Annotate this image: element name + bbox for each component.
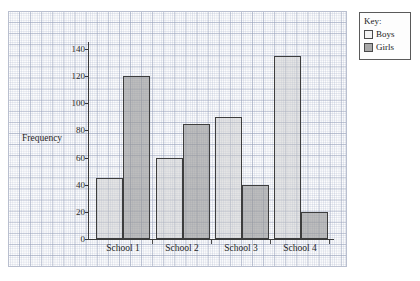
- y-tick-0: [85, 239, 89, 240]
- bar-school-1-boys: [96, 178, 123, 239]
- bar-school-2-boys: [156, 158, 183, 239]
- y-tick-label-80: 80: [55, 126, 85, 135]
- x-tick-label-school-2: School 2: [152, 243, 212, 253]
- bar-school-3-boys: [215, 117, 242, 239]
- y-tick-120: [85, 76, 89, 77]
- bar-school-4-boys: [274, 56, 301, 239]
- y-tick-label-20: 20: [55, 208, 85, 217]
- y-tick-40: [85, 185, 89, 186]
- y-tick-20: [85, 212, 89, 213]
- chart-legend: Key: Boys Girls: [359, 12, 411, 60]
- x-tick-label-school-1: School 1: [93, 243, 153, 253]
- bar-school-3-girls: [242, 185, 269, 239]
- legend-swatch-girls-icon: [364, 43, 373, 52]
- y-tick-label-100: 100: [55, 99, 85, 108]
- bar-chart: Frequency 0 20 40 60 80 100 120 140 Scho…: [0, 0, 420, 281]
- y-tick-60: [85, 158, 89, 159]
- bar-school-4-girls: [301, 212, 328, 239]
- legend-label-boys: Boys: [376, 28, 395, 40]
- bar-school-1-girls: [123, 76, 150, 239]
- legend-swatch-boys-icon: [364, 30, 373, 39]
- y-tick-label-40: 40: [55, 181, 85, 190]
- y-axis-line: [88, 42, 89, 240]
- x-tick-label-school-3: School 3: [211, 243, 271, 253]
- legend-title: Key:: [364, 16, 410, 27]
- y-tick-label-60: 60: [55, 154, 85, 163]
- y-tick-label-0: 0: [55, 235, 85, 244]
- bar-school-2-girls: [183, 124, 210, 239]
- legend-label-girls: Girls: [376, 41, 394, 53]
- y-tick-100: [85, 103, 89, 104]
- y-tick-label-140: 140: [55, 45, 85, 54]
- legend-item-boys: Boys: [364, 28, 410, 40]
- y-tick-140: [85, 49, 89, 50]
- y-tick-label-120: 120: [55, 72, 85, 81]
- legend-item-girls: Girls: [364, 41, 410, 53]
- x-tick-label-school-4: School 4: [270, 243, 330, 253]
- y-tick-80: [85, 130, 89, 131]
